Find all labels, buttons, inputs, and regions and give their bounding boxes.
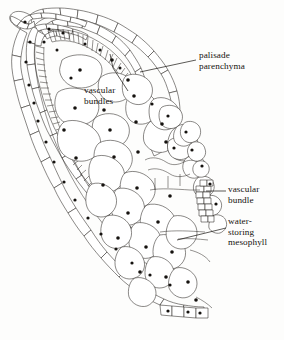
label-palisade-parenchyma: palisade parenchyma [199, 50, 245, 71]
label-water-storing-mesophyll: water- storing mesophyll [228, 216, 267, 248]
label-vascular-bundle: vascular bundle [228, 184, 259, 205]
label-vascular-bundles: vascular bundles [84, 85, 115, 106]
